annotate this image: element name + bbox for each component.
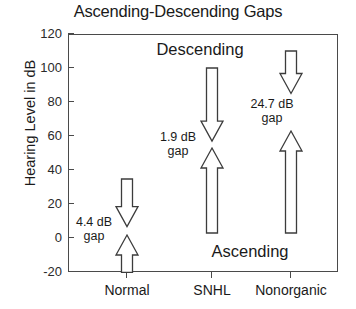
- y-tick-mark: [68, 203, 74, 204]
- arrow-down-normal: [114, 177, 140, 229]
- y-tick-mark: [68, 271, 74, 272]
- y-tick-label: 40: [22, 162, 62, 177]
- gap-word: gap: [160, 144, 196, 158]
- gap-label-snhl: 1.9 dBgap: [160, 130, 196, 158]
- y-tick-label: -20: [22, 264, 62, 279]
- arrow-up-normal: [114, 233, 140, 274]
- y-tick-label: 0: [22, 230, 62, 245]
- y-tick-label: 60: [22, 128, 62, 143]
- y-tick-label: 120: [22, 26, 62, 41]
- x-tick-label-nonorganic: Nonorganic: [255, 282, 327, 298]
- x-tick-mark: [290, 272, 291, 278]
- gap-word: gap: [250, 111, 293, 125]
- arrow-down-nonorganic: [278, 49, 304, 96]
- arrow-up-nonorganic: [278, 129, 304, 235]
- y-tick-label: 80: [22, 94, 62, 109]
- x-tick-label-normal: Normal: [104, 282, 149, 298]
- y-tick-mark: [68, 101, 74, 102]
- annotation-ascending: Ascending: [211, 242, 288, 261]
- chart-title: Ascending-Descending Gaps: [0, 2, 356, 21]
- annotation-descending: Descending: [156, 40, 243, 59]
- gap-label-normal: 4.4 dBgap: [76, 215, 112, 243]
- gap-value: 4.4 dB: [76, 215, 112, 229]
- y-tick-label: 100: [22, 60, 62, 75]
- y-tick-mark: [68, 169, 74, 170]
- gap-value: 24.7 dB: [250, 97, 293, 111]
- gap-value: 1.9 dB: [160, 130, 196, 144]
- x-tick-mark: [211, 272, 212, 278]
- x-tick-label-snhl: SNHL: [193, 282, 230, 298]
- chart-figure: Ascending-Descending Gaps Hearing Level …: [0, 0, 356, 309]
- y-tick-mark: [68, 135, 74, 136]
- arrow-up-snhl: [199, 146, 225, 235]
- gap-word: gap: [76, 229, 112, 243]
- gap-label-nonorganic: 24.7 dBgap: [250, 97, 293, 125]
- y-tick-mark: [68, 237, 74, 238]
- arrow-down-snhl: [199, 66, 225, 143]
- y-tick-mark: [68, 33, 74, 34]
- y-tick-label: 20: [22, 196, 62, 211]
- y-tick-mark: [68, 67, 74, 68]
